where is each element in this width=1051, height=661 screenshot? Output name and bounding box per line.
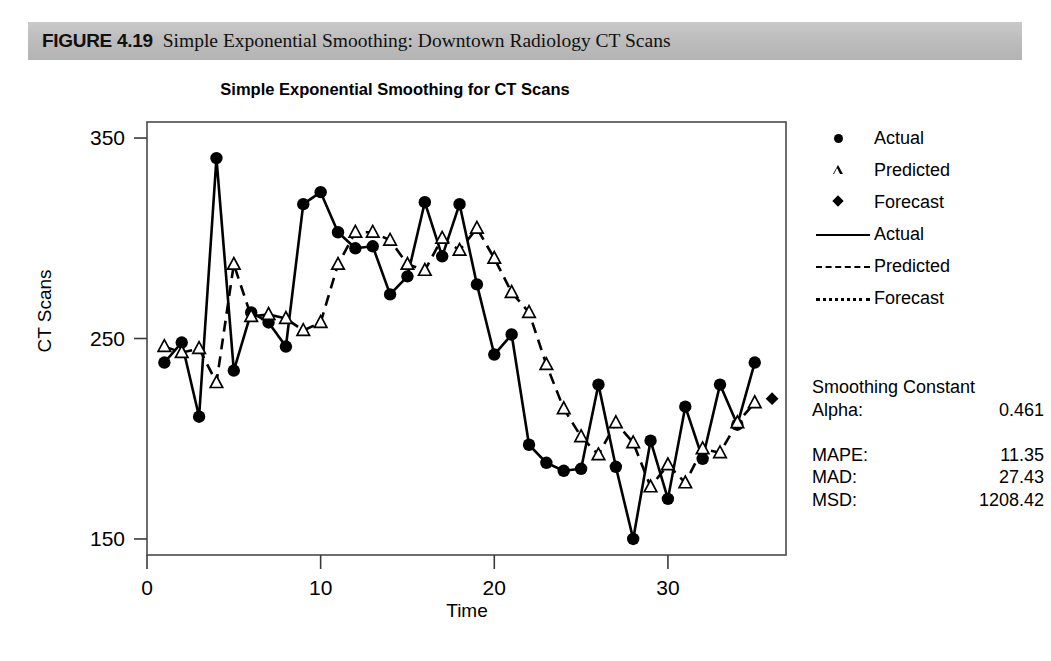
predicted-point-marker [436, 231, 449, 243]
actual-point-marker [749, 356, 761, 368]
stats-spacer [812, 422, 1044, 444]
predicted-point-marker [210, 376, 223, 388]
diamond-marker-icon [812, 186, 874, 218]
x-tick-label: 30 [656, 576, 679, 599]
actual-point-marker [662, 493, 674, 505]
actual-point-marker [228, 364, 240, 376]
dotted-line-icon [812, 282, 874, 314]
chart-plot-area: 1502503500102030 [0, 0, 1051, 661]
legend-label: Forecast [874, 193, 944, 211]
actual-point-marker [193, 410, 205, 422]
actual-point-marker [367, 240, 379, 252]
predicted-point-marker [471, 221, 484, 233]
circle-marker-icon [812, 122, 874, 154]
actual-point-marker [453, 198, 465, 210]
predicted-line [164, 228, 754, 487]
stats-row-mad: MAD: 27.43 [812, 466, 1044, 489]
predicted-point-marker [158, 340, 171, 352]
actual-point-marker [436, 250, 448, 262]
predicted-point-marker [557, 402, 570, 414]
predicted-point-marker [610, 416, 623, 428]
legend-item-actual-line: Actual [812, 218, 1042, 250]
actual-point-marker [314, 186, 326, 198]
actual-point-marker [540, 457, 552, 469]
data-series-group [158, 152, 778, 545]
solid-line-icon [812, 218, 874, 250]
predicted-point-marker [419, 264, 432, 276]
actual-point-marker [714, 378, 726, 390]
predicted-point-marker [505, 286, 518, 298]
actual-point-marker [332, 226, 344, 238]
actual-point-marker [297, 198, 309, 210]
actual-point-marker [349, 242, 361, 254]
forecast-point-marker [766, 392, 779, 405]
predicted-point-marker [662, 458, 675, 470]
stats-label: MAPE: [812, 444, 868, 467]
actual-point-marker [644, 435, 656, 447]
actual-point-marker [627, 533, 639, 545]
actual-point-marker [558, 465, 570, 477]
predicted-point-marker [453, 243, 466, 255]
actual-point-marker [419, 196, 431, 208]
stats-label: Alpha: [812, 399, 863, 422]
chart-svg: 1502503500102030 [0, 0, 1051, 661]
predicted-point-marker [644, 480, 657, 492]
actual-point-marker [471, 278, 483, 290]
legend-label: Predicted [874, 161, 950, 179]
x-tick-label: 20 [483, 576, 506, 599]
predicted-point-marker [592, 448, 605, 460]
legend-item-actual-marker: Actual [812, 122, 1042, 154]
legend-item-predicted-marker: Predicted [812, 154, 1042, 186]
x-tick-label: 10 [309, 576, 332, 599]
legend-label: Forecast [874, 289, 944, 307]
stats-value: 1208.42 [979, 489, 1044, 512]
stats-value: 0.461 [999, 399, 1044, 422]
actual-point-marker [488, 348, 500, 360]
actual-point-marker [679, 400, 691, 412]
actual-point-marker [505, 328, 517, 340]
actual-point-marker [210, 152, 222, 164]
legend-label: Actual [874, 225, 924, 243]
actual-point-marker [592, 378, 604, 390]
actual-point-marker [575, 463, 587, 475]
y-tick-label: 250 [90, 327, 125, 350]
y-axis-title: CT Scans [34, 251, 56, 371]
actual-point-marker [280, 340, 292, 352]
stats-label: MAD: [812, 466, 857, 489]
legend-item-predicted-line: Predicted [812, 250, 1042, 282]
smoothing-stats-panel: Smoothing Constant Alpha: 0.461 MAPE: 11… [812, 377, 1044, 512]
stats-label: MSD: [812, 489, 857, 512]
y-tick-label: 150 [90, 527, 125, 550]
predicted-point-marker [332, 258, 345, 270]
actual-point-marker [384, 288, 396, 300]
x-tick-label: 0 [141, 576, 153, 599]
triangle-marker-icon [812, 154, 874, 186]
tick-labels-group: 1502503500102030 [90, 126, 680, 599]
actual-point-marker [523, 439, 535, 451]
actual-point-marker [158, 356, 170, 368]
predicted-point-marker [349, 225, 362, 237]
predicted-point-marker [262, 308, 275, 320]
x-axis-title: Time [147, 600, 787, 622]
predicted-point-marker [748, 396, 761, 408]
chart-legend: Actual Predicted Forecast Actual Predict… [812, 122, 1042, 314]
predicted-point-marker [314, 316, 327, 328]
predicted-point-marker [540, 358, 553, 370]
legend-item-forecast-marker: Forecast [812, 186, 1042, 218]
stats-row-msd: MSD: 1208.42 [812, 489, 1044, 512]
actual-point-marker [401, 270, 413, 282]
stats-row-mape: MAPE: 11.35 [812, 444, 1044, 467]
legend-label: Predicted [874, 257, 950, 275]
actual-line [164, 158, 754, 539]
legend-item-forecast-line: Forecast [812, 282, 1042, 314]
actual-point-marker [610, 461, 622, 473]
legend-label: Actual [874, 129, 924, 147]
predicted-point-marker [228, 258, 241, 270]
dashed-line-icon [812, 250, 874, 282]
stats-row-alpha: Alpha: 0.461 [812, 399, 1044, 422]
y-tick-label: 350 [90, 126, 125, 149]
stats-heading: Smoothing Constant [812, 377, 1044, 398]
stats-value: 11.35 [1000, 444, 1044, 467]
stats-value: 27.43 [999, 466, 1044, 489]
